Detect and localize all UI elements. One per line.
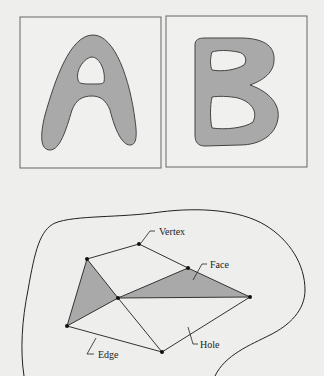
figure-canvas: Vertex Face Hole Edge <box>0 0 324 376</box>
edge-label: Edge <box>98 349 119 360</box>
face-label: Face <box>210 259 229 270</box>
edge-leader <box>87 338 96 354</box>
face-left <box>67 259 118 326</box>
vertex-label: Vertex <box>159 226 185 237</box>
mesh-diagram: Vertex Face Hole Edge <box>22 210 305 376</box>
hole-leader <box>188 327 198 344</box>
vertex-leader <box>141 231 155 243</box>
face-right <box>118 268 250 298</box>
panel-a <box>20 17 161 168</box>
hole-label: Hole <box>200 339 220 350</box>
panel-b <box>166 16 307 167</box>
